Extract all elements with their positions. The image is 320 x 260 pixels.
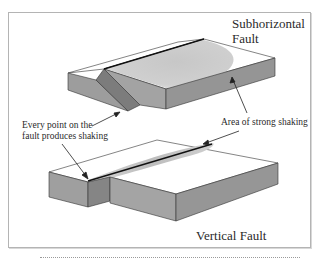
note-line-2: fault produces shaking [22,131,108,142]
strong-shaking-note: Area of strong shaking [221,117,308,128]
subhorizontal-fault-title: Subhorizontal Fault [232,17,305,47]
clipped-caption-text [40,254,300,260]
arrowhead-icon [114,112,120,117]
title-line-1: Subhorizontal [232,17,305,32]
note-line-1: Every point on the [22,120,108,131]
vertical-fault-block [49,140,278,221]
subhorizontal-fault-block [68,39,275,111]
title-line-2: Fault [232,32,305,47]
every-point-note: Every point on the fault produces shakin… [22,120,108,142]
vertical-fault-title: Vertical Fault [196,229,266,244]
arrow-strong-shaking-lower [206,131,239,143]
fault-offset-face [88,177,110,207]
arrowhead-icon [203,140,209,145]
